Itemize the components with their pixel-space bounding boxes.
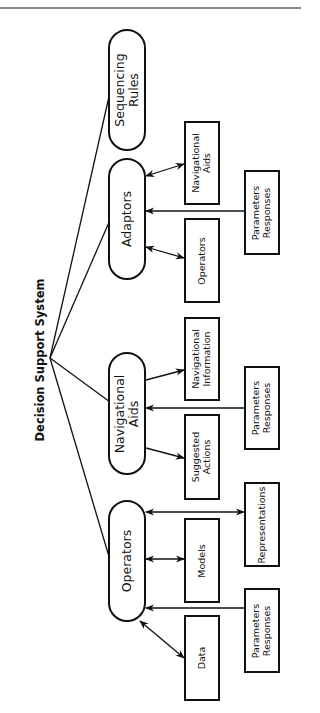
node-label: Data <box>197 647 208 670</box>
link-adaptors-navaids <box>146 164 184 176</box>
link-navaids-navinfo <box>146 370 184 380</box>
link-root-sequencing-rules <box>50 92 110 358</box>
node-label: Models <box>197 544 208 577</box>
link-adaptors-operators <box>146 247 184 258</box>
node-label: Representations <box>257 486 268 563</box>
node-operators: Operators <box>108 500 146 622</box>
link-root-operators <box>50 358 110 560</box>
node-data: Data <box>184 615 220 701</box>
node-adaptors-operators: Operators <box>184 218 220 303</box>
node-suggested-actions: Suggested Actions <box>184 414 220 500</box>
node-label: Operators <box>197 237 208 284</box>
node-adaptors-params: Parameters Responses <box>244 170 280 255</box>
node-label: Parameters Responses <box>251 185 272 239</box>
node-label: Adaptors <box>120 191 134 247</box>
node-models: Models <box>184 518 220 603</box>
link-operators-data <box>140 621 184 658</box>
link-navaids-suggested <box>146 448 184 458</box>
node-label: Parameters Responses <box>251 381 272 435</box>
node-label: Suggested Actions <box>191 432 212 483</box>
diagram-title: Decision Support System <box>33 279 47 442</box>
node-adaptors: Adaptors <box>108 158 146 280</box>
node-sequencing-rules: Sequencing Rules <box>108 29 146 151</box>
node-representations: Representations <box>244 482 280 567</box>
node-adaptors-navaids: Navigational Aids <box>184 121 220 205</box>
link-root-navigational-aids <box>50 358 110 402</box>
node-navigational-information: Navigational Information <box>184 317 220 401</box>
node-label: Sequencing Rules <box>113 53 141 126</box>
node-navaids-params: Parameters Responses <box>244 366 280 450</box>
link-root-adaptors <box>50 220 110 358</box>
node-label: Navigational Aids <box>113 374 141 453</box>
node-operators-params: Parameters Responses <box>244 588 280 673</box>
node-label: Navigational Information <box>191 329 212 389</box>
node-label: Operators <box>120 530 134 592</box>
node-label: Parameters Responses <box>251 603 272 657</box>
node-label: Navigational Aids <box>191 133 212 193</box>
node-navigational-aids: Navigational Aids <box>108 352 146 475</box>
